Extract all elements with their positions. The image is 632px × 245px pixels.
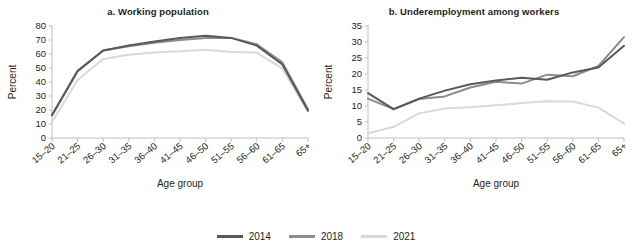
series-line-2018	[368, 37, 624, 109]
legend-item-2018: 2018	[289, 231, 343, 242]
series-line-2014	[368, 46, 624, 109]
y-tick-label: 70	[35, 34, 46, 45]
legend-item-2021: 2021	[361, 231, 415, 242]
chart-panel-a: a. Working population 010203040506070801…	[0, 0, 316, 215]
x-tick-label: 56–60	[550, 140, 577, 165]
x-tick-label: 31–35	[422, 140, 449, 165]
legend-swatch-2014	[217, 235, 243, 238]
y-axis-title: Percent	[7, 65, 18, 100]
y-tick-label: 5	[357, 116, 362, 127]
x-tick-label: 26–30	[81, 140, 108, 165]
x-tick-label: 26–30	[397, 140, 424, 165]
panels-row: a. Working population 010203040506070801…	[0, 0, 632, 215]
x-tick-label: 46–50	[183, 140, 210, 165]
legend-item-2014: 2014	[217, 231, 271, 242]
x-tick-label: 41–45	[473, 140, 500, 165]
y-tick-label: 80	[35, 20, 46, 31]
series-line-2021	[368, 101, 624, 133]
y-tick-label: 25	[351, 52, 362, 63]
panel-b-title: b. Underemployment among workers	[316, 6, 632, 17]
x-tick-label: 21–25	[55, 140, 82, 165]
y-tick-label: 0	[41, 132, 46, 143]
x-axis-title: Age group	[157, 178, 204, 189]
legend-label-2021: 2021	[393, 231, 415, 242]
x-tick-label: 36–40	[132, 140, 159, 165]
panel-a-title: a. Working population	[0, 6, 316, 17]
x-tick-label: 31–35	[106, 140, 133, 165]
legend-swatch-2021	[361, 235, 387, 238]
y-tick-label: 20	[351, 68, 362, 79]
figure-container: a. Working population 010203040506070801…	[0, 0, 632, 245]
x-tick-label: 61–65	[576, 140, 603, 165]
chart-panel-b: b. Underemployment among workers 0510152…	[316, 0, 632, 215]
x-tick-label: 61–65	[260, 140, 287, 165]
x-tick-label: 36–40	[448, 140, 475, 165]
y-tick-label: 60	[35, 48, 46, 59]
x-tick-label: 65+	[293, 140, 313, 159]
x-tick-label: 51–55	[525, 140, 552, 165]
y-tick-label: 40	[35, 76, 46, 87]
panel-a-plot: 0102030405060708015–2021–2526–3031–3536–…	[0, 18, 316, 193]
y-tick-label: 10	[351, 100, 362, 111]
y-tick-label: 10	[35, 118, 46, 129]
x-tick-label: 65+	[609, 140, 629, 159]
y-tick-label: 50	[35, 62, 46, 73]
y-tick-label: 20	[35, 104, 46, 115]
x-tick-label: 21–25	[371, 140, 398, 165]
legend-swatch-2018	[289, 235, 315, 238]
series-line-2014	[52, 36, 308, 115]
series-line-2018	[52, 38, 308, 116]
y-tick-label: 15	[351, 84, 362, 95]
y-tick-label: 30	[35, 90, 46, 101]
y-tick-label: 30	[351, 36, 362, 47]
legend-label-2018: 2018	[321, 231, 343, 242]
x-tick-label: 51–55	[209, 140, 236, 165]
legend-label-2014: 2014	[249, 231, 271, 242]
x-tick-label: 41–45	[157, 140, 184, 165]
y-tick-label: 35	[351, 20, 362, 31]
x-tick-label: 15–20	[29, 140, 56, 165]
x-tick-label: 46–50	[499, 140, 526, 165]
x-tick-label: 15–20	[345, 140, 372, 165]
x-axis-title: Age group	[473, 178, 520, 189]
panel-b-plot: 0510152025303515–2021–2526–3031–3536–404…	[316, 18, 632, 193]
y-axis-title: Percent	[323, 65, 334, 100]
chart-legend: 2014 2018 2021	[0, 231, 632, 242]
y-tick-label: 0	[357, 132, 362, 143]
x-tick-label: 56–60	[234, 140, 261, 165]
